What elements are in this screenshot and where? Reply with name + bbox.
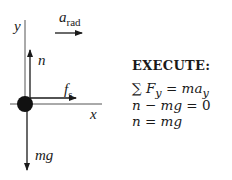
friction-force-label: fs (64, 82, 72, 97)
equation-result: n = mg (132, 115, 182, 129)
eq3-n: n (132, 113, 141, 129)
eq2-minus: − (141, 97, 161, 113)
acceleration-symbol: a (59, 9, 67, 25)
weight-force-label: mg (35, 148, 53, 163)
normal-force-label: n (38, 53, 46, 68)
acceleration-subscript: rad (67, 16, 81, 28)
eq2-n: n (132, 97, 141, 113)
eq2-equals-zero: = 0 (182, 97, 210, 113)
x-axis-label: x (90, 107, 97, 122)
equation-net-force: n − mg = 0 (132, 99, 211, 113)
acceleration-label: arad (59, 10, 81, 25)
eq3-mg: mg (161, 113, 182, 129)
y-axis-label: y (14, 19, 21, 34)
eq3-equals: = (141, 113, 161, 129)
friction-subscript: s (68, 88, 72, 100)
body-dot (17, 96, 33, 112)
execute-heading: EXECUTE: (132, 58, 210, 73)
force-symbol: F (146, 80, 155, 96)
sum-symbol: ∑ (132, 80, 142, 96)
mass-accel: ma (182, 80, 203, 96)
eq2-mg: mg (161, 97, 182, 113)
